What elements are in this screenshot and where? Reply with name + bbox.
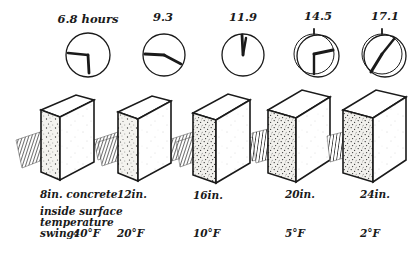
thickness-label-24in: 24in. bbox=[359, 188, 390, 200]
block-face-24in bbox=[343, 110, 373, 182]
clock-hand-a-12in bbox=[145, 54, 164, 55]
block-face-20in bbox=[268, 110, 296, 182]
clock-12in bbox=[143, 34, 185, 76]
swing-label-12in: 20°F bbox=[116, 227, 146, 239]
thickness-label-8in: 8in. concrete bbox=[40, 188, 118, 200]
clock-8in bbox=[66, 33, 110, 77]
block-face-8in bbox=[41, 110, 60, 180]
thickness-label-20in: 20in. bbox=[284, 188, 315, 200]
lag-label-24in: 17.1 bbox=[371, 9, 399, 23]
block-face-16in bbox=[193, 113, 216, 183]
swing-label-24in: 2°F bbox=[359, 227, 382, 239]
lag-label-20in: 14.5 bbox=[304, 9, 332, 23]
thermal-mass-figure: 6.8 hours 8in. concrete 9.3 12in. bbox=[0, 0, 419, 254]
swing-label-20in: 5°F bbox=[285, 227, 307, 239]
thickness-label-16in: 16in. bbox=[193, 189, 223, 201]
swing-label-16in: 10°F bbox=[193, 227, 222, 239]
clock-16in bbox=[222, 34, 264, 76]
lag-label-12in: 9.3 bbox=[153, 10, 173, 24]
lag-label-16in: 11.9 bbox=[229, 10, 257, 24]
block-face-12in bbox=[118, 112, 138, 181]
figure-canvas: 6.8 hours 8in. concrete 9.3 12in. bbox=[0, 0, 419, 254]
thickness-label-12in: 12in. bbox=[117, 188, 147, 200]
lag-label-8in: 6.8 hours bbox=[58, 12, 119, 26]
swing-label-8in: 40°F bbox=[73, 227, 102, 239]
clock-hand-b-8in bbox=[88, 55, 89, 73]
